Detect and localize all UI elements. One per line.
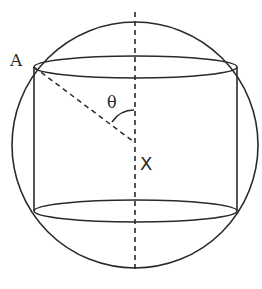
label-point-a: A (9, 50, 23, 70)
label-center-x: X (140, 153, 152, 174)
label-angle-theta: θ (107, 93, 117, 112)
sphere-cylinder-diagram: A X θ (0, 0, 262, 289)
diagram-canvas: A X θ (0, 0, 262, 289)
